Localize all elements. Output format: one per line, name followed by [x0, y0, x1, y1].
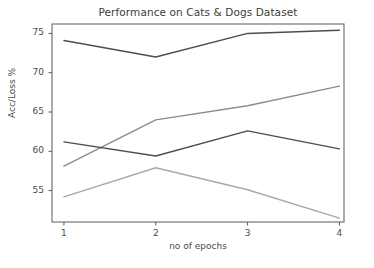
chart-figure: Performance on Cats & Dogs Dataset 55606…: [0, 0, 374, 268]
y-axis-label: Acc/Loss %: [7, 57, 17, 129]
x-axis-label: no of epochs: [52, 241, 344, 251]
x-axis-tick-marks: [64, 222, 339, 226]
plot-area: [0, 0, 374, 268]
y-axis-tick-marks: [49, 33, 53, 190]
plot-background: [52, 24, 344, 222]
